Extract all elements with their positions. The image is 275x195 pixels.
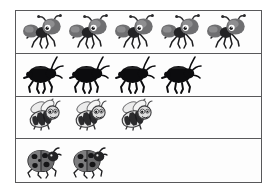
ant-icon [204, 11, 250, 53]
ladybug-icon [66, 140, 112, 182]
beetle-icon [158, 54, 204, 96]
beetle-icon [20, 54, 66, 96]
pictograph-row-ladybugs [16, 139, 261, 182]
pictograph-row-beetles [16, 54, 261, 97]
ant-icon [112, 11, 158, 53]
pictograph-row-ants [16, 11, 261, 54]
bee-icon [112, 97, 158, 139]
ladybug-icon [20, 140, 66, 182]
bee-icon [20, 97, 66, 139]
pictograph-row-bees [16, 97, 261, 140]
ant-icon [158, 11, 204, 53]
beetle-icon [112, 54, 158, 96]
ant-icon [66, 11, 112, 53]
ant-icon [20, 11, 66, 53]
chart-frame [15, 10, 262, 183]
bee-icon [66, 97, 112, 139]
pictograph-chart [0, 0, 275, 195]
beetle-icon [66, 54, 112, 96]
